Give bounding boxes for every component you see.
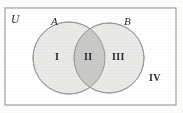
set-a-label: A bbox=[51, 16, 58, 27]
region-label-iii: III bbox=[112, 52, 125, 62]
region-label-iv: IV bbox=[149, 73, 161, 83]
region-label-ii: II bbox=[84, 52, 93, 62]
venn-diagram-figure: U A B I II III IV bbox=[0, 0, 183, 113]
universal-set-label: U bbox=[11, 14, 19, 26]
set-b-label: B bbox=[124, 16, 131, 27]
region-label-i: I bbox=[55, 52, 59, 62]
